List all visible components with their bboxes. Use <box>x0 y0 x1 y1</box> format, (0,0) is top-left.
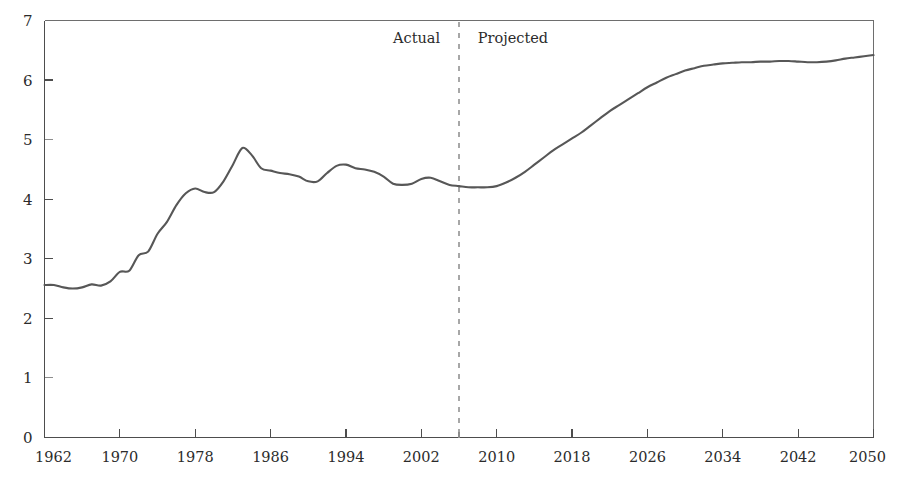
x-tick-label-1962: 1962 <box>35 449 72 465</box>
y-axis-tick-labels: 01234567 <box>23 12 33 447</box>
x-tick-label-1994: 1994 <box>328 449 365 465</box>
y-axis-ticks <box>45 80 53 378</box>
chart-container: 01234567 1962197019781986199420022010201… <box>0 0 898 481</box>
y-tick-label-1: 1 <box>23 369 33 387</box>
x-tick-label-2050: 2050 <box>849 449 886 465</box>
projected-label: Projected <box>478 30 548 46</box>
x-tick-label-2010: 2010 <box>478 449 515 465</box>
x-tick-label-1970: 1970 <box>101 449 138 465</box>
x-tick-label-2034: 2034 <box>704 449 741 465</box>
x-tick-label-2026: 2026 <box>629 449 666 465</box>
x-tick-label-2042: 2042 <box>780 449 817 465</box>
chart-annotations: ActualProjected <box>392 30 548 46</box>
y-tick-label-3: 3 <box>23 250 33 268</box>
y-tick-label-5: 5 <box>23 131 33 149</box>
x-tick-label-1978: 1978 <box>177 449 214 465</box>
x-axis-tick-labels: 1962197019781986199420022010201820262034… <box>35 449 886 465</box>
x-tick-label-1986: 1986 <box>252 449 289 465</box>
y-tick-label-7: 7 <box>23 12 33 30</box>
y-tick-label-2: 2 <box>23 310 33 328</box>
x-tick-label-2002: 2002 <box>403 449 440 465</box>
y-tick-label-6: 6 <box>23 72 33 90</box>
x-tick-label-2018: 2018 <box>554 449 591 465</box>
actual-label: Actual <box>392 30 440 46</box>
line-chart: 01234567 1962197019781986199420022010201… <box>0 0 898 481</box>
y-tick-label-4: 4 <box>23 191 33 209</box>
y-tick-label-0: 0 <box>23 429 33 447</box>
x-axis-ticks <box>120 429 874 438</box>
